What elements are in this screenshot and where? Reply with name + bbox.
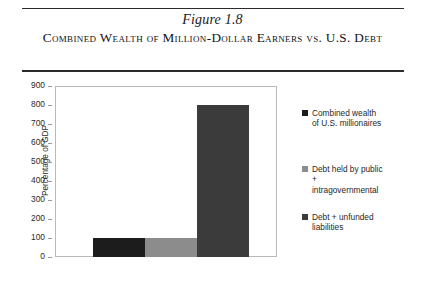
legend-item-label: Debt held by public + intragovernmental	[312, 164, 383, 195]
y-axis-tick-label: 400	[31, 175, 45, 185]
y-axis-tick-mark	[48, 86, 52, 87]
legend-item-label: Debt + unfunded liabilities	[312, 212, 374, 233]
y-axis-tick-mark	[48, 238, 52, 239]
bars-layer	[55, 86, 277, 257]
y-axis-tick-mark	[48, 124, 52, 125]
y-axis-tick-label: 300	[31, 194, 45, 204]
y-axis-tick-mark	[48, 105, 52, 106]
legend-item[interactable]: Debt + unfunded liabilities	[302, 212, 422, 233]
legend-swatch-icon	[302, 166, 308, 172]
y-axis-tick-mark	[48, 219, 52, 220]
bar	[93, 238, 145, 257]
y-axis-tick-label: 900	[31, 80, 45, 90]
header-rule-top	[22, 8, 404, 9]
y-axis-tick-label: 200	[31, 213, 45, 223]
legend-item[interactable]: Debt held by public + intragovernmental	[302, 164, 422, 195]
bar	[197, 105, 249, 257]
bar	[145, 238, 197, 257]
y-axis-tick-mark	[48, 257, 52, 258]
y-axis-tick-mark	[48, 162, 52, 163]
y-axis-tick-label: 800	[31, 99, 45, 109]
y-axis-tick-mark	[48, 143, 52, 144]
legend-swatch-icon	[302, 110, 308, 116]
y-axis-tick-label: 100	[31, 232, 45, 242]
legend-item-label: Combined wealth of U.S. millionaires	[312, 108, 381, 129]
y-axis-tick-label: 600	[31, 137, 45, 147]
figure-number: Figure 1.8	[0, 12, 425, 28]
figure-title: Combined Wealth of Million-Dollar Earner…	[30, 29, 395, 46]
y-axis-tick-label: 500	[31, 156, 45, 166]
y-axis-tick-label: 0	[40, 251, 45, 261]
y-axis-tick-labels: 0100200300400500600700800900	[14, 86, 52, 257]
y-axis-tick-mark	[48, 181, 52, 182]
y-axis-tick-label: 700	[31, 118, 45, 128]
y-axis-tick-mark	[48, 200, 52, 201]
legend-item[interactable]: Combined wealth of U.S. millionaires	[302, 108, 422, 129]
header-rule-bottom	[22, 70, 404, 72]
legend-swatch-icon	[302, 214, 308, 220]
